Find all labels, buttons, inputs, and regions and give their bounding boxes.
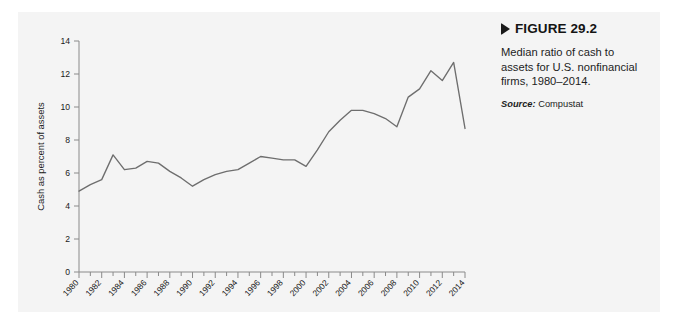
figure-description-text: Median ratio of cash to assets for U.S. … — [501, 45, 647, 89]
figure-number-label: FIGURE 29.2 — [515, 21, 597, 36]
y-axis-tick-label: 12 — [60, 69, 70, 79]
y-axis-tick-label: 0 — [65, 267, 70, 277]
chart-canvas: 02468101214 1980198219841986198819901992… — [18, 12, 488, 312]
x-axis-tick-label: 2000 — [288, 277, 308, 298]
x-axis-tick-label: 1992 — [197, 277, 217, 298]
x-axis-tick-label: 1988 — [151, 277, 171, 298]
y-axis-title-text: Cash as percent of assets — [35, 102, 46, 211]
y-axis-tick-label: 10 — [60, 102, 70, 112]
figure-container: 02468101214 1980198219841986198819901992… — [18, 12, 660, 312]
x-axis-tick-label: 1996 — [242, 277, 262, 298]
figure-page: 02468101214 1980198219841986198819901992… — [0, 0, 683, 323]
figure-source-line: Source: Compustat — [501, 99, 651, 109]
y-axis-tick-label: 8 — [65, 135, 70, 145]
figure-heading: FIGURE 29.2 — [501, 21, 651, 36]
x-axis-tick-label: 1986 — [129, 277, 149, 298]
line-chart: 02468101214 1980198219841986198819901992… — [18, 12, 488, 312]
x-axis-tick-label: 2004 — [333, 277, 353, 298]
y-axis-tick-label: 6 — [65, 168, 70, 178]
y-axis: 02468101214 — [60, 36, 79, 277]
x-axis-tick-label: 2014 — [447, 277, 467, 298]
figure-caption: FIGURE 29.2 Median ratio of cash to asse… — [501, 21, 651, 109]
x-axis: 1980198219841986198819901992199419961998… — [61, 272, 467, 298]
y-axis-tick-label: 2 — [65, 234, 70, 244]
x-axis-tick-label: 1998 — [265, 277, 285, 298]
source-value: Compustat — [538, 99, 583, 109]
x-axis-tick-label: 1982 — [83, 277, 103, 298]
x-axis-tick-label: 1980 — [61, 277, 81, 298]
x-axis-tick-label: 2008 — [378, 277, 398, 298]
series-line-median-cash-assets — [79, 62, 465, 191]
x-axis-tick-label: 1990 — [174, 277, 194, 298]
x-axis-tick-label: 1994 — [220, 277, 240, 298]
x-axis-tick-label: 2010 — [401, 277, 421, 298]
y-axis-tick-label: 4 — [65, 201, 70, 211]
source-label: Source: — [501, 99, 536, 109]
x-axis-tick-label: 2002 — [310, 277, 330, 298]
y-axis-title: Cash as percent of assets — [35, 102, 46, 211]
data-series-line — [79, 62, 465, 191]
x-axis-tick-label: 2006 — [356, 277, 376, 298]
x-axis-tick-label: 1984 — [106, 277, 126, 298]
triangle-right-icon — [501, 23, 510, 35]
x-axis-tick-label: 2012 — [424, 277, 444, 298]
y-axis-tick-label: 14 — [60, 36, 70, 46]
